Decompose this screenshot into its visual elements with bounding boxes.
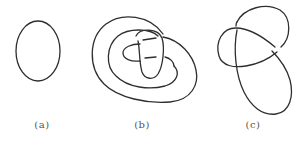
panel-b-knot	[92, 17, 196, 103]
panel-c-knot	[218, 6, 292, 114]
panel-label-a: (a)	[34, 119, 49, 130]
panel-label-b: (b)	[134, 119, 150, 130]
panel-a-unknot	[16, 21, 60, 81]
panel-label-c: (c)	[246, 119, 261, 130]
